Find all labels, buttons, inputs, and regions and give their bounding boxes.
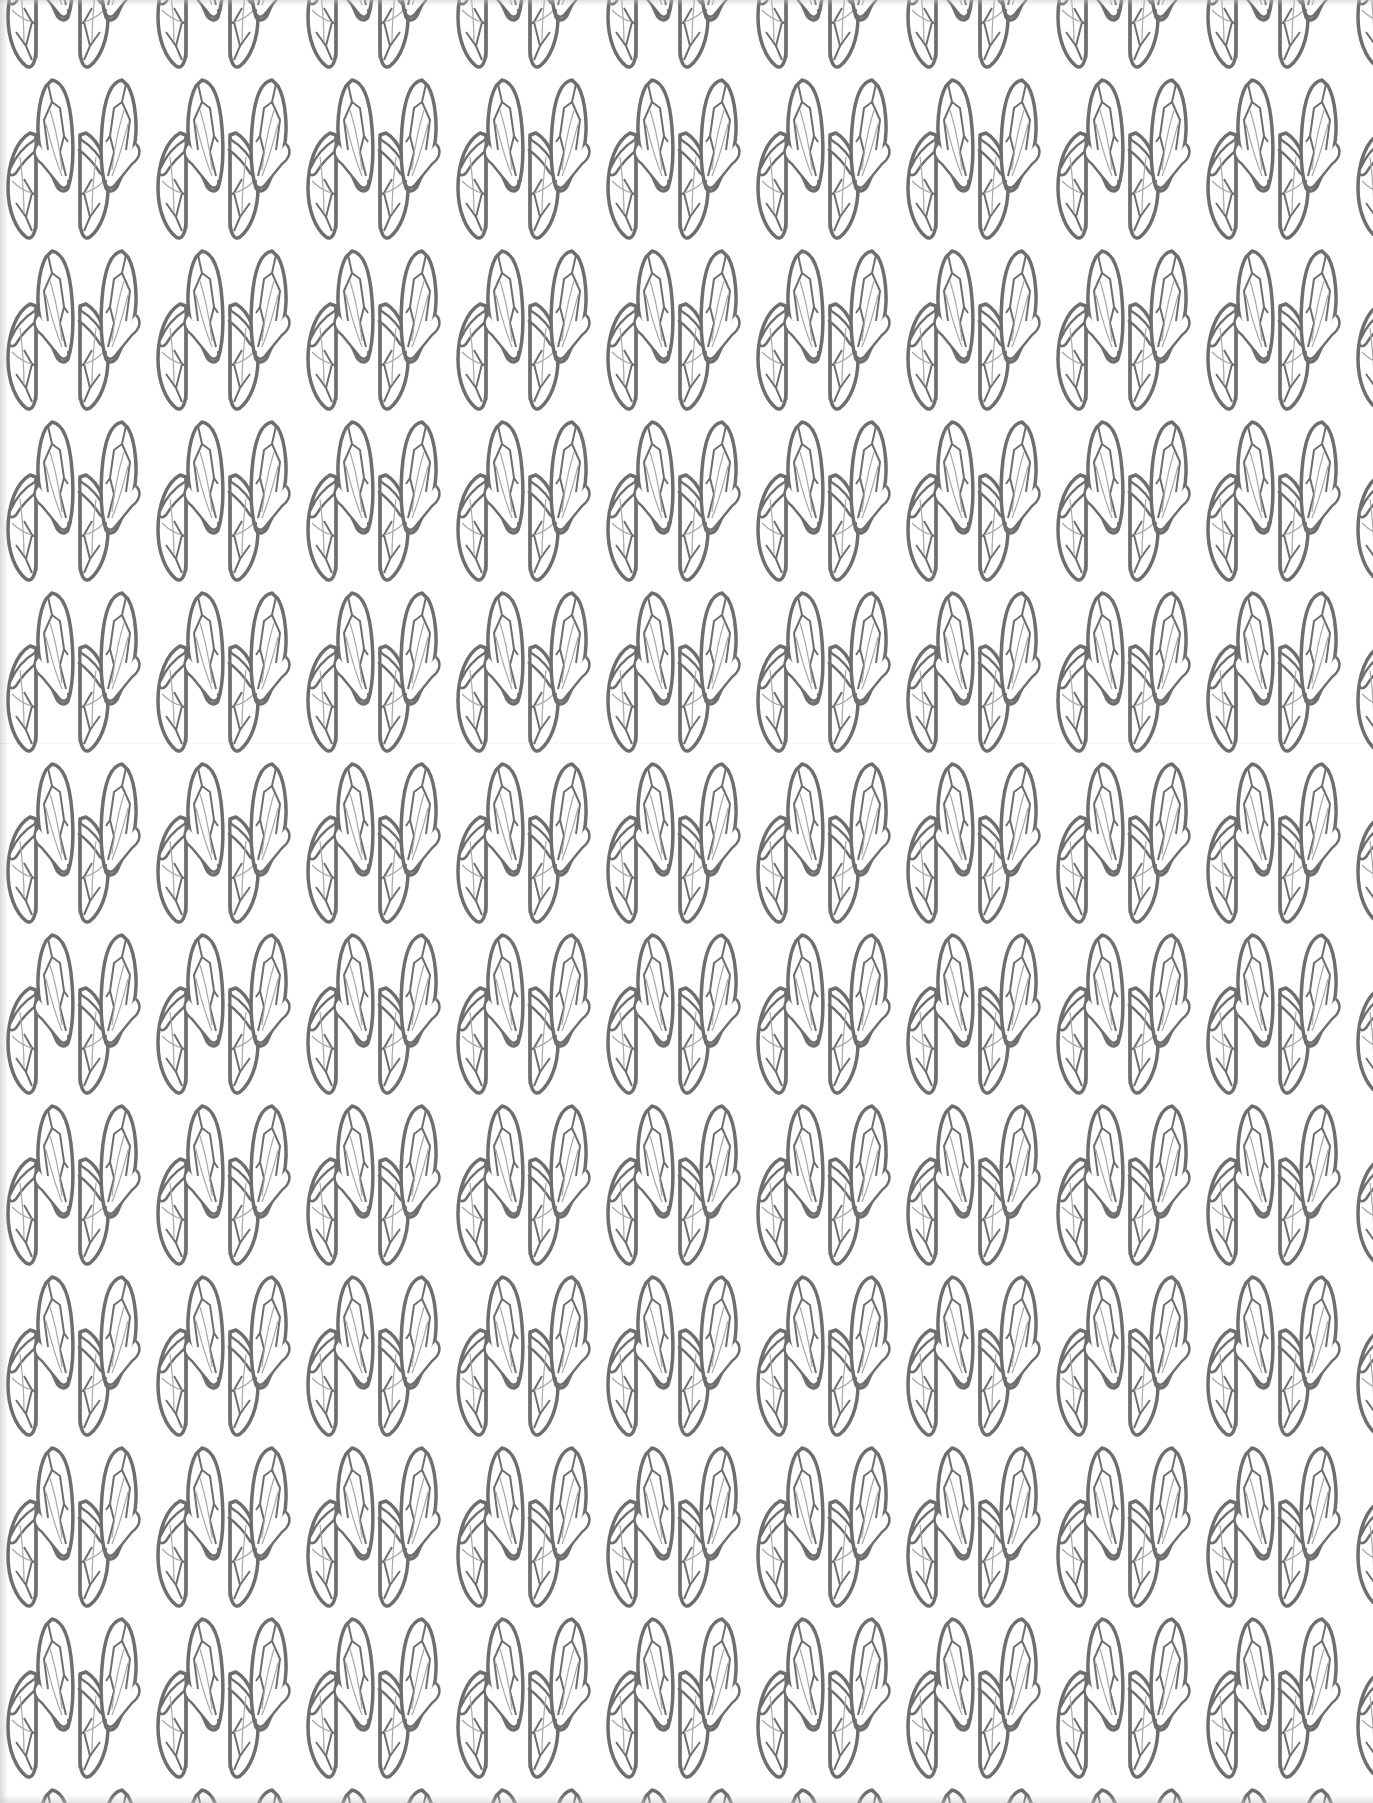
pattern-fill	[0, 0, 1373, 1803]
scan-edge-left	[0, 0, 8, 1803]
scan-edge-bottom	[0, 1795, 1373, 1803]
scan-edge-top	[0, 0, 1373, 6]
scan-seam	[0, 743, 1373, 744]
wing-pattern-background	[0, 0, 1373, 1803]
